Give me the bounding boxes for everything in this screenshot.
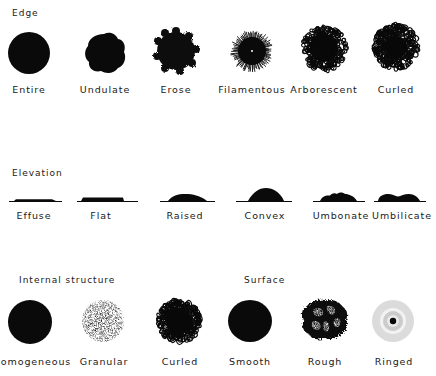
elevation-label-umbonate: Umbonate <box>313 210 370 221</box>
surface-smooth-icon <box>228 300 272 342</box>
edge-label-arborescent: Arborescent <box>290 84 357 95</box>
edge-label-curled: Curled <box>378 84 414 95</box>
elevation-convex-icon <box>236 188 292 202</box>
elevation-figures <box>0 180 436 210</box>
elevation-label-convex: Convex <box>245 210 286 221</box>
surface-section-title: Surface <box>244 275 285 285</box>
edge-curled-icon <box>371 22 420 72</box>
elevation-label-effuse: Effuse <box>17 210 52 221</box>
surface-label-rough: Rough <box>308 356 343 367</box>
edge-label-erose: Erose <box>161 84 192 95</box>
edge-label-entire: Entire <box>12 84 45 95</box>
edge-undulate-icon <box>85 33 125 73</box>
elevation-section-title: Elevation <box>12 168 63 178</box>
edge-filamentous-icon <box>230 31 272 72</box>
internal-label-homogeneous: Homogeneous <box>0 356 71 367</box>
internal-homogeneous-icon <box>8 300 52 344</box>
elevation-umbonate-icon <box>313 193 365 202</box>
elevation-raised-icon <box>160 194 215 202</box>
edge-arborescent-icon <box>301 24 349 72</box>
surface-label-ringed: Ringed <box>375 356 414 367</box>
elevation-umbilicate-icon <box>374 194 426 202</box>
internal-label-curled: Curled <box>162 356 198 367</box>
elevation-label-raised: Raised <box>166 210 203 221</box>
edge-erose-icon <box>153 27 200 75</box>
internal-curled-icon <box>156 298 203 346</box>
edge-label-filamentous: Filamentous <box>218 84 285 95</box>
elevation-effuse-icon <box>9 199 62 201</box>
surface-ringed-icon <box>372 300 414 342</box>
internal-structure-section-title: Internal structure <box>19 275 115 285</box>
elevation-label-umbilicate: Umbilicate <box>372 210 432 221</box>
surface-label-smooth: Smooth <box>229 356 271 367</box>
internal-label-granular: Granular <box>80 356 129 367</box>
structure-surface-figures <box>0 290 436 350</box>
elevation-flat-icon <box>77 198 138 202</box>
elevation-label-flat: Flat <box>90 210 111 221</box>
edge-entire-icon <box>8 32 50 74</box>
edge-label-undulate: Undulate <box>80 84 130 95</box>
internal-granular-icon <box>82 300 124 342</box>
surface-rough-icon <box>302 300 347 340</box>
